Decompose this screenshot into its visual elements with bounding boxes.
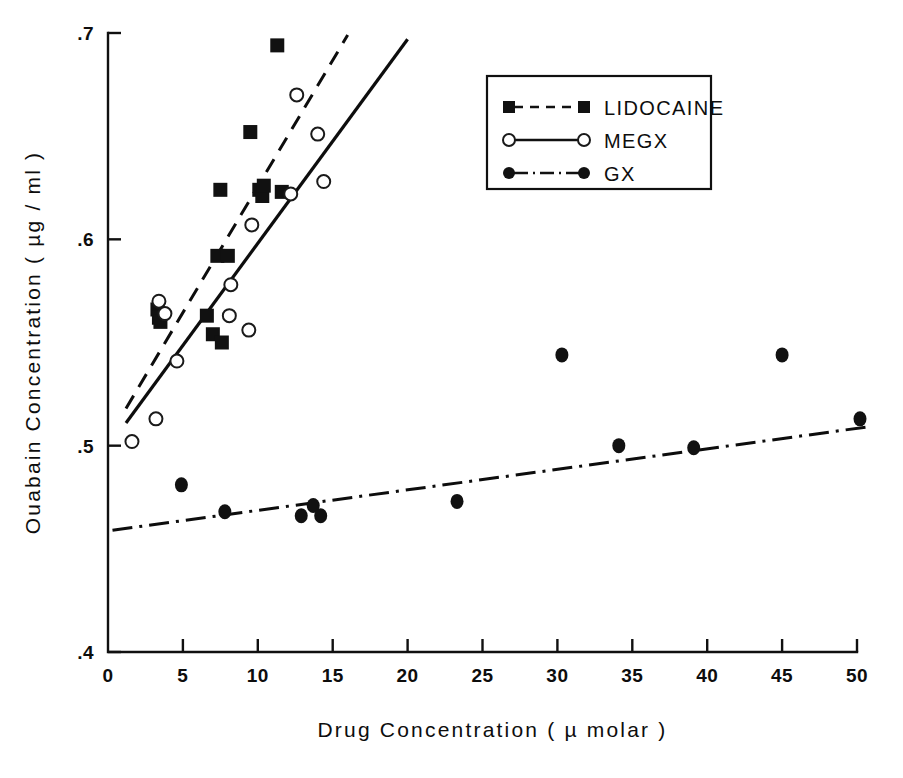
data-point-megx: [224, 278, 237, 291]
legend-marker-0: [503, 101, 515, 113]
x-tick-label: 45: [771, 665, 793, 686]
y-tick-label: .7: [77, 23, 94, 44]
axes-layer: .4.5.6.705101520253035404550: [77, 23, 868, 686]
data-point-megx: [317, 175, 330, 188]
data-point-lidocaine: [213, 183, 227, 197]
data-point-lidocaine: [200, 309, 214, 323]
x-tick-label: 0: [102, 665, 113, 686]
legend-marker-0: [578, 101, 590, 113]
data-point-gx: [555, 347, 568, 362]
y-tick-label: .6: [77, 229, 94, 250]
data-point-lidocaine: [257, 179, 271, 193]
x-tick-label: 25: [471, 665, 493, 686]
data-point-gx: [612, 438, 625, 453]
data-point-megx: [149, 412, 162, 425]
data-point-gx: [776, 347, 789, 362]
data-point-megx: [284, 187, 297, 200]
data-point-megx: [290, 88, 303, 101]
data-point-gx: [314, 508, 327, 523]
data-point-gx: [175, 477, 188, 492]
data-point-gx: [853, 411, 866, 426]
legend-marker-1: [503, 134, 515, 146]
x-tick-label: 10: [247, 665, 269, 686]
legend[interactable]: LIDOCAINEMEGXGX: [487, 76, 724, 189]
data-point-megx: [170, 355, 183, 368]
data-point-lidocaine: [243, 125, 257, 139]
data-point-megx: [245, 218, 258, 231]
data-point-gx: [687, 440, 700, 455]
x-axis-title: Drug Concentration ( µ molar ): [317, 718, 667, 741]
data-point-megx: [152, 295, 165, 308]
fit-line-megx: [126, 39, 408, 423]
x-tick-label: 40: [696, 665, 718, 686]
legend-label-gx: GX: [604, 163, 636, 185]
data-point-megx: [158, 307, 171, 320]
figure-panel: .4.5.6.705101520253035404550 LIDOCAINEME…: [0, 0, 903, 778]
data-point-lidocaine: [221, 249, 235, 263]
data-point-megx: [223, 309, 236, 322]
legend-marker-2: [503, 167, 515, 179]
fit-line-lidocaine: [126, 35, 348, 408]
data-point-lidocaine: [270, 38, 284, 52]
y-tick-label: .5: [77, 436, 94, 457]
y-tick-label: .4: [77, 642, 94, 663]
data-point-gx: [295, 508, 308, 523]
x-tick-label: 30: [546, 665, 568, 686]
data-point-megx: [242, 324, 255, 337]
data-point-megx: [311, 128, 324, 141]
x-tick-label: 50: [846, 665, 868, 686]
data-point-lidocaine: [215, 336, 229, 350]
legend-label-lidocaine: LIDOCAINE: [604, 97, 724, 119]
legend-marker-2: [578, 167, 590, 179]
data-point-megx: [125, 435, 138, 448]
data-point-gx: [218, 504, 231, 519]
x-tick-label: 35: [621, 665, 643, 686]
scatter-plot: .4.5.6.705101520253035404550 LIDOCAINEME…: [0, 0, 903, 778]
legend-marker-1: [578, 134, 590, 146]
data-point-gx: [451, 494, 464, 509]
x-tick-label: 15: [322, 665, 344, 686]
x-tick-label: 5: [177, 665, 188, 686]
y-axis-title: Ouabain Concentration ( µg / ml ): [21, 151, 44, 535]
legend-label-megx: MEGX: [604, 130, 669, 152]
x-tick-label: 20: [397, 665, 419, 686]
